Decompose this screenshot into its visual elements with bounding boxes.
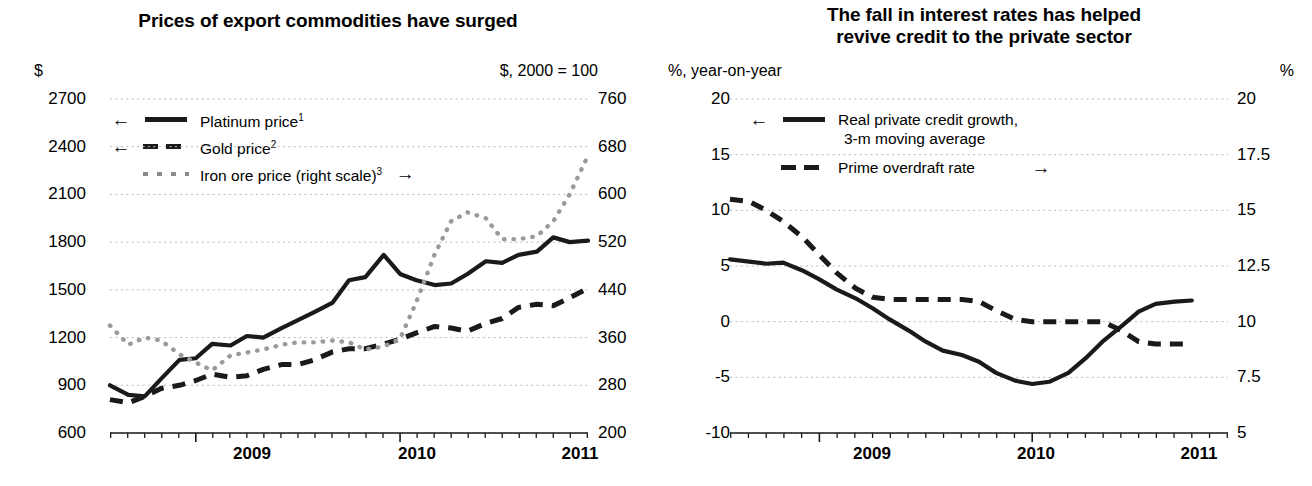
- chart-panel-commodity-prices: Prices of export commodities have surged…: [0, 0, 656, 486]
- plot-area-right: [656, 0, 1312, 486]
- chart-panel-interest-rates-credit: The fall in interest rates has helped re…: [656, 0, 1312, 486]
- plot-area-left: [0, 0, 656, 486]
- figure-page: Prices of export commodities have surged…: [0, 0, 1312, 486]
